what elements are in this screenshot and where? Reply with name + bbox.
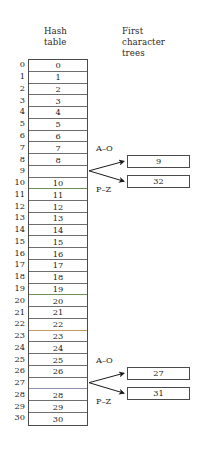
- tree-node: 31: [127, 387, 190, 400]
- tree-connector-arrows: [0, 0, 201, 452]
- first-character-tree: A–O27P–Z31: [0, 0, 201, 452]
- hash-table-figure: Hash table First character trees 0123456…: [0, 0, 201, 452]
- tree-branch-label: A–O: [96, 356, 113, 365]
- tree-branch-label: P–Z: [96, 397, 111, 406]
- tree-node: 27: [127, 367, 190, 380]
